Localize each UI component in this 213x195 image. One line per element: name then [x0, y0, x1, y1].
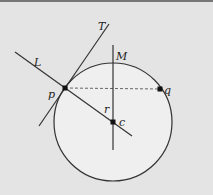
point-c-marker [111, 120, 116, 125]
geometry-diagram: T L M p q r c [0, 0, 213, 195]
point-q-marker [158, 87, 163, 92]
label-q: q [164, 84, 171, 97]
label-r: r [104, 103, 110, 116]
label-p: p [48, 88, 55, 101]
point-p-marker [63, 86, 68, 91]
label-L: L [33, 56, 41, 69]
label-c: c [119, 116, 125, 129]
label-M: M [115, 50, 128, 63]
label-T: T [98, 20, 107, 33]
